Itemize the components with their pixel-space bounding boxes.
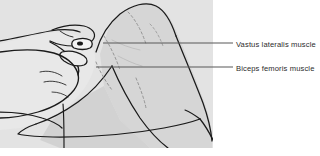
callout-label-biceps-femoris: Biceps femoris muscle [236,64,314,73]
illustration-canvas [0,0,320,156]
fingernail-shadow [77,41,83,45]
anatomical-figure: Vastus lateralis muscle Biceps femoris m… [0,0,320,156]
callout-label-vastus-lateralis: Vastus lateralis muscle [236,40,316,49]
